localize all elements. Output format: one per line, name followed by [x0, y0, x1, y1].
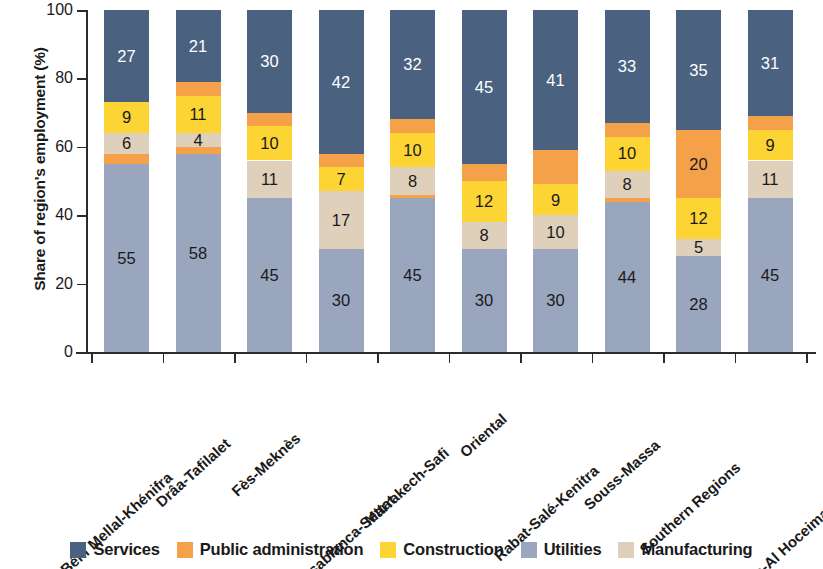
bar-segment[interactable]: 9	[748, 130, 793, 161]
bar-segment[interactable]: 30	[319, 249, 364, 352]
legend-item[interactable]: Services	[70, 540, 159, 559]
y-axis-title: Share of region's employment (%)	[31, 0, 49, 349]
x-tick-mark	[234, 352, 236, 363]
bar-segment-value: 8	[622, 176, 631, 193]
bar-segment[interactable]: 11	[748, 161, 793, 199]
bar-segment[interactable]: 58	[176, 154, 221, 352]
bar-segment[interactable]: 30	[533, 249, 578, 352]
x-axis-label: Marrakech-Safi	[360, 444, 451, 529]
bar-segment[interactable]: 10	[605, 137, 650, 171]
bar-segment[interactable]: 10	[390, 133, 435, 167]
bar-segment[interactable]: 17	[319, 191, 364, 249]
bar-segment-value: 12	[689, 210, 707, 227]
bar-segment[interactable]: 30	[247, 10, 292, 113]
bar-segment[interactable]: 27	[104, 10, 149, 102]
bar-stack[interactable]: 556927	[104, 10, 149, 352]
bar-segment[interactable]	[176, 82, 221, 96]
bar-segment[interactable]: 8	[390, 167, 435, 194]
bar-segment-value: 6	[122, 135, 131, 152]
y-tick-label: 0	[64, 343, 73, 361]
x-tick-mark	[449, 352, 451, 363]
bar-segment[interactable]	[462, 164, 507, 181]
bar-segment-value: 21	[189, 38, 207, 55]
legend-label: Utilities	[544, 540, 602, 559]
bar-segment[interactable]	[104, 154, 149, 164]
bar-segment[interactable]: 12	[676, 198, 721, 239]
x-tick-mark	[806, 352, 808, 363]
bar-segment[interactable]: 7	[319, 167, 364, 191]
y-tick-label: 40	[55, 206, 73, 224]
bar-segment[interactable]: 31	[748, 10, 793, 116]
bar-segment-value: 11	[761, 171, 778, 188]
bar-segment[interactable]: 45	[462, 10, 507, 164]
bar-segment[interactable]	[390, 119, 435, 133]
legend-swatch-icon	[521, 542, 537, 558]
bar-segment-value: 45	[475, 79, 493, 96]
bar-segment-value: 33	[618, 58, 636, 75]
y-tick-mark	[77, 284, 86, 286]
bar-stack[interactable]: 4581032	[390, 10, 435, 352]
bar-segment[interactable]: 44	[605, 202, 650, 352]
legend-label: Manufacturing	[641, 540, 752, 559]
bar-segment[interactable]: 55	[104, 164, 149, 352]
bar-segment[interactable]	[247, 113, 292, 127]
legend-swatch-icon	[618, 542, 634, 558]
bar-segment-value: 45	[761, 267, 779, 284]
bar-segment[interactable]: 4	[176, 133, 221, 147]
bar-segment[interactable]: 8	[605, 171, 650, 198]
bar-segment[interactable]	[390, 195, 435, 198]
bar-segment[interactable]: 45	[247, 198, 292, 352]
legend-item[interactable]: Utilities	[521, 540, 602, 559]
bar-segment[interactable]: 5	[676, 239, 721, 256]
x-tick-mark	[91, 352, 93, 363]
bar-segment[interactable]: 11	[176, 96, 221, 134]
bar-segment[interactable]	[533, 150, 578, 184]
bar-stack[interactable]: 45111030	[247, 10, 292, 352]
bar-segment[interactable]: 28	[676, 256, 721, 352]
bar-stack[interactable]: 5841121	[176, 10, 221, 352]
legend-item[interactable]: Manufacturing	[618, 540, 752, 559]
bar-stack[interactable]: 285122035	[676, 10, 721, 352]
bar-segment[interactable]: 9	[104, 102, 149, 133]
bar-segment[interactable]: 10	[533, 215, 578, 249]
bar-segment[interactable]	[605, 123, 650, 137]
bar-segment[interactable]: 33	[605, 10, 650, 123]
bar-segment-value: 58	[189, 245, 207, 262]
bar-stack[interactable]: 4511931	[748, 10, 793, 352]
bar-segment[interactable]: 12	[462, 181, 507, 222]
bar-segment[interactable]: 10	[247, 126, 292, 160]
bar-stack[interactable]: 3081245	[462, 10, 507, 352]
legend-item[interactable]: Public administration	[177, 540, 364, 559]
bar-segment-value: 42	[332, 74, 350, 91]
bar-segment[interactable]: 35	[676, 10, 721, 130]
bar-segment[interactable]: 42	[319, 10, 364, 154]
bar-segment[interactable]: 45	[748, 198, 793, 352]
bar-stack[interactable]: 3017742	[319, 10, 364, 352]
bar-segment[interactable]: 6	[104, 133, 149, 154]
bar-segment-value: 11	[189, 106, 206, 123]
bar-segment-value: 8	[479, 227, 488, 244]
y-tick-label: 80	[55, 69, 73, 87]
x-tick-mark	[306, 352, 308, 363]
bar-segment[interactable]: 9	[533, 184, 578, 215]
bar-segment[interactable]	[605, 198, 650, 201]
bar-segment[interactable]: 32	[390, 10, 435, 119]
bar-segment[interactable]: 11	[247, 161, 292, 199]
bar-segment-value: 12	[475, 193, 493, 210]
y-tick-mark	[77, 147, 86, 149]
x-tick-mark	[663, 352, 665, 363]
bar-segment[interactable]	[176, 147, 221, 154]
x-tick-mark	[735, 352, 737, 363]
bar-segment-value: 30	[475, 292, 493, 309]
bar-segment[interactable]: 30	[462, 249, 507, 352]
bar-segment[interactable]: 21	[176, 10, 221, 82]
bar-segment[interactable]: 45	[390, 198, 435, 352]
bar-segment[interactable]: 20	[676, 130, 721, 198]
bar-segment[interactable]: 8	[462, 222, 507, 249]
bar-segment[interactable]: 41	[533, 10, 578, 150]
legend-item[interactable]: Construction	[380, 540, 503, 559]
bar-stack[interactable]: 4481033	[605, 10, 650, 352]
bar-segment[interactable]	[748, 116, 793, 130]
bar-stack[interactable]: 3010941	[533, 10, 578, 352]
bar-segment[interactable]	[319, 154, 364, 168]
